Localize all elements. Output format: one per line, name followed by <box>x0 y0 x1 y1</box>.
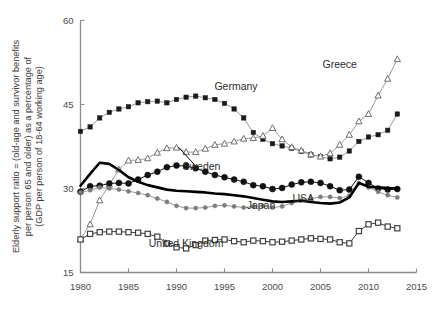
data-point <box>241 179 247 185</box>
series-label-united-kingdom: United Kingdom <box>149 237 224 249</box>
data-point <box>328 157 332 161</box>
data-point <box>250 182 256 188</box>
data-point <box>385 75 391 81</box>
data-point <box>145 231 150 236</box>
y-axis-tick-label: 15 <box>63 267 74 278</box>
data-point <box>174 163 180 169</box>
data-point <box>107 186 111 190</box>
x-axis-tick-label: 2005 <box>310 281 331 292</box>
data-point <box>222 174 228 180</box>
data-point <box>260 183 266 189</box>
data-point <box>222 101 226 105</box>
data-point <box>203 96 207 100</box>
y-axis-tick-label: 60 <box>63 15 74 26</box>
data-point <box>78 129 82 133</box>
data-point <box>356 174 362 180</box>
data-point <box>184 206 188 210</box>
data-point <box>356 228 361 233</box>
data-point <box>126 189 130 193</box>
data-point <box>78 237 83 242</box>
data-point <box>337 240 342 245</box>
data-point <box>194 94 198 98</box>
data-point <box>241 240 246 245</box>
data-point <box>365 111 371 117</box>
data-point <box>394 56 400 62</box>
data-point <box>97 197 103 203</box>
data-point <box>212 172 218 178</box>
data-point <box>106 180 112 186</box>
data-point <box>87 221 93 227</box>
data-point <box>213 204 217 208</box>
data-point <box>375 92 381 98</box>
data-point <box>376 190 380 194</box>
x-axis-tick-label: 1980 <box>70 281 91 292</box>
series-united-kingdom <box>78 220 400 251</box>
data-point <box>328 237 333 242</box>
data-point <box>232 204 236 208</box>
data-point <box>337 187 343 193</box>
data-point <box>231 177 237 183</box>
data-point <box>232 239 237 244</box>
data-point <box>78 190 82 194</box>
data-point <box>126 230 131 235</box>
data-point <box>116 229 121 234</box>
x-axis-tick-label: 1985 <box>118 281 139 292</box>
data-point <box>164 164 170 170</box>
data-point <box>203 205 207 209</box>
data-point <box>298 179 304 185</box>
y-axis-label-rotated: Elderly support ratio = (old-age and sur… <box>11 39 44 253</box>
y-axis-tick-labels: 15304560 <box>63 15 74 278</box>
x-axis-tick-label: 1990 <box>166 281 187 292</box>
x-axis-tick-labels: 19801985199019952000200520102015 <box>70 281 427 292</box>
series-label-usa: USA <box>292 192 314 204</box>
data-point <box>88 188 92 192</box>
data-point <box>279 185 285 191</box>
data-point <box>145 155 151 161</box>
data-point <box>242 205 246 209</box>
data-point <box>88 125 92 129</box>
data-point <box>280 144 284 148</box>
data-point <box>155 99 159 103</box>
data-point <box>308 236 313 241</box>
y-axis-tick-label: 30 <box>63 183 74 194</box>
y-axis-label-line: per person 65 and older) as a percentage… <box>23 56 33 236</box>
data-point <box>395 195 399 199</box>
y-axis-label-line: (GDP per person of 18-64 working age) <box>34 66 44 227</box>
data-point <box>356 118 362 124</box>
data-point <box>318 195 322 199</box>
x-axis-tick-label: 1995 <box>214 281 235 292</box>
data-point <box>136 191 140 195</box>
data-point <box>357 139 361 143</box>
data-point <box>270 240 275 245</box>
y-axis-label: Elderly support ratio = (old-age and sur… <box>11 39 44 253</box>
data-point <box>155 196 159 200</box>
data-point <box>165 200 169 204</box>
data-point <box>328 195 332 199</box>
y-axis-label-line: Elderly support ratio = (old-age and sur… <box>11 39 21 253</box>
data-point <box>366 222 371 227</box>
data-point <box>174 204 178 208</box>
data-point <box>136 230 141 235</box>
data-point <box>289 182 295 188</box>
data-point <box>269 125 275 131</box>
data-point <box>88 231 93 236</box>
data-point <box>338 155 342 159</box>
data-point <box>146 193 150 197</box>
data-point <box>376 133 380 137</box>
data-point <box>270 142 274 146</box>
chart-figure: Elderly support ratio = (old-age and sur… <box>0 0 437 317</box>
data-point <box>366 135 370 139</box>
data-point <box>376 220 381 225</box>
y-axis-tick-label: 45 <box>63 99 74 110</box>
data-point <box>107 110 111 114</box>
data-point <box>136 101 140 105</box>
x-axis-tick-label: 2015 <box>406 281 427 292</box>
series-sweden <box>78 163 401 195</box>
data-point <box>289 238 294 243</box>
series-label-sweden: Sweden <box>182 160 220 172</box>
series-label-greece: Greece <box>322 58 357 70</box>
data-point <box>386 128 390 132</box>
data-point <box>145 172 151 178</box>
data-point <box>117 188 121 192</box>
x-axis-tick-label: 2010 <box>358 281 379 292</box>
